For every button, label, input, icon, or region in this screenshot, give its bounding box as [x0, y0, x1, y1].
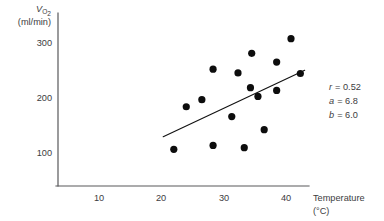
stat-a: a= 6.8: [329, 96, 358, 106]
data-point: [209, 142, 216, 149]
stat-b: b= 6.0: [329, 110, 358, 120]
data-point: [254, 93, 261, 100]
data-point: [183, 103, 190, 110]
data-point: [247, 84, 254, 91]
data-point: [248, 50, 255, 57]
data-point: [287, 35, 294, 42]
x-tick-label-40: 40: [281, 193, 291, 203]
stat-a-var: a: [329, 96, 334, 106]
x-axis-title: Temperature: [313, 193, 365, 203]
data-point: [273, 58, 280, 65]
stat-r: r= 0.52: [329, 82, 361, 92]
data-point: [170, 146, 177, 153]
data-point: [297, 70, 304, 77]
data-point: [241, 144, 248, 151]
y-axis-title-2: 2: [47, 10, 51, 17]
stat-r-value: = 0.52: [335, 82, 361, 92]
data-points-group: [170, 35, 304, 153]
y-axis-units: (ml/min): [18, 17, 51, 27]
y-tick-label-100: 100: [37, 148, 52, 158]
stat-a-value: = 6.8: [337, 96, 358, 106]
data-point: [261, 126, 268, 133]
data-point: [228, 113, 235, 120]
stat-r-var: r: [329, 82, 333, 92]
x-tick-label-30: 30: [219, 193, 229, 203]
x-axis-units: (°C): [313, 206, 329, 216]
x-tick-label-20: 20: [156, 193, 166, 203]
stat-b-var: b: [329, 110, 334, 120]
regression-line: [163, 70, 305, 136]
plot-canvas: VO2 (ml/min) 300 200 100 10 20 30 40 Tem…: [0, 0, 384, 221]
data-point: [198, 96, 205, 103]
y-tick-label-200: 200: [37, 93, 52, 103]
data-point: [234, 69, 241, 76]
data-point: [209, 66, 216, 73]
stat-b-value: = 6.0: [337, 110, 358, 120]
data-point: [273, 87, 280, 94]
x-tick-label-10: 10: [94, 193, 104, 203]
y-axis-title: VO2: [36, 4, 51, 17]
scatter-plot-figure: VO2 (ml/min) 300 200 100 10 20 30 40 Tem…: [0, 0, 384, 221]
y-tick-label-300: 300: [37, 38, 52, 48]
